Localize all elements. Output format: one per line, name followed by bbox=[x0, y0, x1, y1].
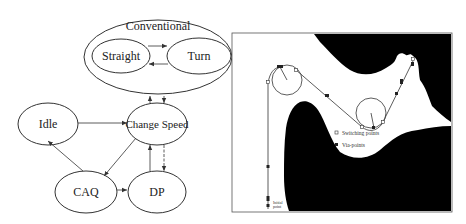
filled-square-icon bbox=[335, 143, 338, 146]
figure-canvas: Conventional Straight Turn Idle Change S… bbox=[0, 0, 466, 224]
state-turn: Turn bbox=[167, 38, 231, 74]
state-label-turn: Turn bbox=[188, 49, 211, 63]
state-dp: DP bbox=[128, 171, 186, 213]
initial-point-label-2: point bbox=[273, 204, 282, 209]
state-caq: CAQ bbox=[55, 171, 117, 213]
state-idle: Idle bbox=[18, 103, 78, 145]
legend-label-switching: Switching points bbox=[342, 130, 379, 136]
edge-changespeed-to-caq bbox=[104, 138, 136, 176]
state-label-idle: Idle bbox=[39, 117, 58, 131]
state-label-caq: CAQ bbox=[73, 185, 99, 199]
open-square-icon bbox=[335, 131, 338, 134]
state-label-straight: Straight bbox=[102, 49, 141, 63]
path-map: Initial point Switching points Via-point… bbox=[232, 33, 452, 212]
state-label-dp: DP bbox=[149, 185, 165, 199]
state-label-change-speed: Change Speed bbox=[125, 118, 189, 130]
edge-caq-to-idle bbox=[48, 141, 83, 171]
state-diagram: Conventional Straight Turn Idle Change S… bbox=[18, 19, 232, 213]
legend-label-via: Via-points bbox=[342, 142, 365, 148]
group-label-conventional: Conventional bbox=[126, 19, 191, 33]
state-straight: Straight bbox=[92, 39, 150, 73]
